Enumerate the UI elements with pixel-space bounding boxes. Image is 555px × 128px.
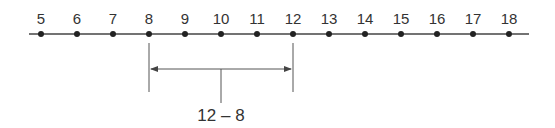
tick-label-7: 7 bbox=[109, 10, 117, 27]
tick-label-14: 14 bbox=[357, 10, 374, 27]
tick-label-15: 15 bbox=[393, 10, 410, 27]
point-7 bbox=[110, 31, 116, 37]
point-5 bbox=[38, 31, 44, 37]
point-12 bbox=[290, 31, 296, 37]
number-line-diagram: 56789101112131415161718 12 – 8 bbox=[0, 0, 555, 128]
tick-label-5: 5 bbox=[37, 10, 45, 27]
point-14 bbox=[362, 31, 368, 37]
tick-label-11: 11 bbox=[249, 10, 265, 27]
point-8 bbox=[146, 31, 152, 37]
tick-label-13: 13 bbox=[321, 10, 338, 27]
tick-label-6: 6 bbox=[73, 10, 81, 27]
tick-label-18: 18 bbox=[501, 10, 518, 27]
tick-label-16: 16 bbox=[429, 10, 446, 27]
point-11 bbox=[254, 31, 260, 37]
point-17 bbox=[470, 31, 476, 37]
interval-annotation: 12 – 8 bbox=[149, 43, 293, 125]
point-10 bbox=[218, 31, 224, 37]
interval-expression-label: 12 – 8 bbox=[197, 106, 244, 125]
tick-label-9: 9 bbox=[181, 10, 189, 27]
point-9 bbox=[182, 31, 188, 37]
point-13 bbox=[326, 31, 332, 37]
tick-label-10: 10 bbox=[213, 10, 230, 27]
tick-label-8: 8 bbox=[145, 10, 153, 27]
point-6 bbox=[74, 31, 80, 37]
point-16 bbox=[434, 31, 440, 37]
tick-label-17: 17 bbox=[465, 10, 482, 27]
point-18 bbox=[506, 31, 512, 37]
point-15 bbox=[398, 31, 404, 37]
tick-label-12: 12 bbox=[285, 10, 302, 27]
number-line-points: 56789101112131415161718 bbox=[37, 10, 518, 37]
